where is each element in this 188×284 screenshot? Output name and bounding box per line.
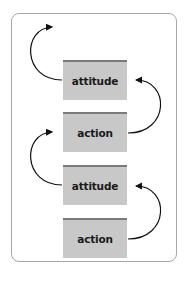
arrow-action-to-attitude-2: [128, 186, 161, 239]
arrow-action-to-attitude: [128, 80, 161, 133]
arrow-attitude-to-action: [31, 132, 62, 185]
arrows: [0, 0, 188, 284]
arrow-attitude-up: [31, 27, 62, 80]
